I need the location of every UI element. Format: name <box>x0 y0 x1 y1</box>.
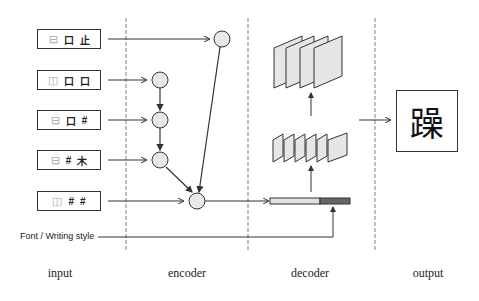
column-label-output: output <box>383 266 473 281</box>
input-box: ⊟ 口 # <box>37 110 101 130</box>
component: 口 <box>80 73 90 88</box>
component: 口 <box>64 32 74 47</box>
component: # <box>68 196 74 207</box>
structure-icon: ⊟ <box>51 154 60 167</box>
structure-icon: ⊟ <box>51 114 60 127</box>
column-label-input: input <box>15 266 105 281</box>
encoder-node <box>152 112 168 128</box>
encoder-arrows <box>160 47 220 192</box>
input-box: ⊟ 口 止 <box>37 29 101 49</box>
component: # <box>80 196 86 207</box>
structure-icon: ⊟ <box>49 33 58 46</box>
component: # <box>66 155 72 166</box>
encoder-node <box>152 152 168 168</box>
encoder-node <box>214 31 230 47</box>
column-label-encoder: encoder <box>142 266 232 281</box>
component: 止 <box>80 32 90 47</box>
input-box: ◫ # # <box>37 191 101 211</box>
style-input-label: Font / Writing style <box>20 231 94 241</box>
output-character: 躁 <box>410 97 444 146</box>
decoder-feature-maps-small <box>273 133 347 162</box>
architecture-diagram: ⊟ 口 止 ◫ 口 口 ⊟ 口 # ⊟ # 木 ◫ # # Font / Wri… <box>0 0 479 301</box>
component: 木 <box>77 153 87 168</box>
structure-icon: ◫ <box>48 74 58 87</box>
component: 口 <box>66 113 76 128</box>
encoder-node <box>189 193 205 209</box>
component: 口 <box>64 73 74 88</box>
input-box: ⊟ # 木 <box>37 150 101 170</box>
latent-vector <box>270 198 350 204</box>
decoder-feature-maps-large <box>274 36 342 88</box>
encoder-node <box>152 72 168 88</box>
structure-icon: ◫ <box>52 195 62 208</box>
column-label-decoder: decoder <box>265 266 355 281</box>
input-box: ◫ 口 口 <box>37 70 101 90</box>
component: # <box>82 115 88 126</box>
output-character-box: 躁 <box>396 90 458 152</box>
style-arrow <box>98 207 333 237</box>
